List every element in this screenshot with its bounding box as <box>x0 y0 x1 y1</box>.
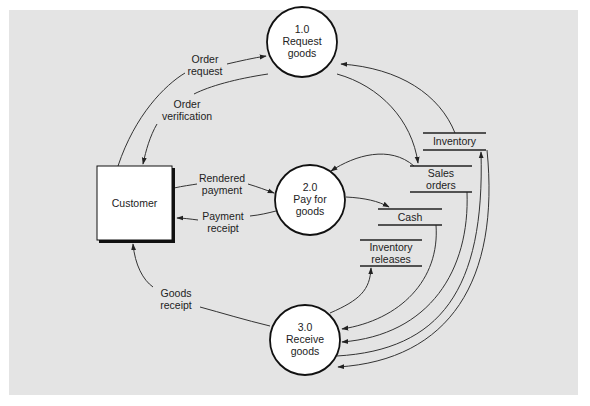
store-label-line1: Sales <box>410 167 472 179</box>
flow-pay-to-cash <box>346 197 389 207</box>
store-sales-orders-label: Sales orders <box>410 167 472 191</box>
flow-label-line1: Goods <box>154 287 198 299</box>
store-label-line1: Inventory <box>360 241 422 253</box>
process-name-line1: Receive <box>270 333 340 345</box>
store-label-line1: Cash <box>378 211 442 223</box>
process-name-line1: Request <box>267 35 337 47</box>
store-label-line1: Inventory <box>423 135 486 147</box>
flow-label-line1: Payment <box>198 210 248 222</box>
flow-payment-receipt-head <box>177 218 198 220</box>
process-pay-for-goods-label: 2.0 Pay for goods <box>275 181 345 217</box>
flow-label-rendered-payment: Rendered payment <box>195 172 249 196</box>
flow-label-line1: Rendered <box>195 172 249 184</box>
entity-customer-label: Customer <box>97 197 172 209</box>
store-inventory-label: Inventory <box>423 135 486 147</box>
flow-label-line2: payment <box>195 184 249 196</box>
process-number: 3.0 <box>270 321 340 333</box>
flow-inventory-to-request <box>341 64 455 133</box>
flow-label-line1: Order <box>180 53 230 65</box>
store-label-line2: releases <box>360 253 422 265</box>
process-name-line2: goods <box>275 205 345 217</box>
flow-sales-orders-to-pay <box>331 154 414 171</box>
store-label-line2: orders <box>410 179 472 191</box>
flow-label-goods-receipt: Goods receipt <box>154 287 198 311</box>
process-number: 2.0 <box>275 181 345 193</box>
process-request-goods-label: 1.0 Request goods <box>267 23 337 59</box>
flow-label-line2: verification <box>155 110 219 122</box>
flow-receive-to-inventory-releases <box>330 268 371 313</box>
process-name-line2: goods <box>267 47 337 59</box>
flow-label-order-verification: Order verification <box>155 98 219 122</box>
flow-label-line1: Order <box>155 98 219 110</box>
flow-label-line2: receipt <box>154 299 198 311</box>
process-name-line2: goods <box>270 345 340 357</box>
flow-order-request-head <box>227 56 266 64</box>
process-receive-goods-label: 3.0 Receive goods <box>270 321 340 357</box>
process-name-line1: Pay for <box>275 193 345 205</box>
flow-order-verification <box>194 74 268 94</box>
flow-goods-receipt <box>200 307 270 326</box>
flow-label-line2: receipt <box>198 222 248 234</box>
flow-rendered-payment-head <box>248 184 274 193</box>
process-number: 1.0 <box>267 23 337 35</box>
store-inventory-releases-label: Inventory releases <box>360 241 422 265</box>
flow-payment-receipt <box>250 211 276 216</box>
flow-request-to-sales-orders <box>337 74 418 163</box>
flow-label-order-request: Order request <box>180 53 230 77</box>
store-cash-label: Cash <box>378 211 442 223</box>
flow-goods-receipt-head <box>133 244 153 287</box>
flow-label-line2: request <box>180 65 230 77</box>
flow-label-payment-receipt: Payment receipt <box>198 210 248 234</box>
flow-order-verification-head <box>143 124 157 164</box>
flow-rendered-payment <box>174 184 197 188</box>
